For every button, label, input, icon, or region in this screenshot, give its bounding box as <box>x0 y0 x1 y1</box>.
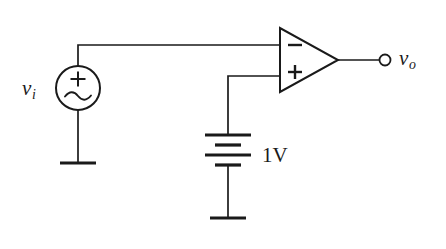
ground-source <box>60 163 96 177</box>
operational-amplifier <box>280 28 338 92</box>
dc-battery <box>205 135 251 165</box>
ac-voltage-source <box>56 66 100 110</box>
wire-source-to-inverting-input <box>78 45 281 66</box>
battery-value-label: 1V <box>262 145 288 166</box>
input-source-label: vi <box>22 78 35 99</box>
circuit-schematic-svg <box>0 0 446 249</box>
circuit-diagram: vi vo 1V <box>0 0 446 249</box>
wire-noninverting-to-battery <box>228 76 281 135</box>
ground-battery <box>210 218 246 232</box>
output-terminal-label: vo <box>399 48 415 69</box>
output-terminal <box>380 55 391 66</box>
